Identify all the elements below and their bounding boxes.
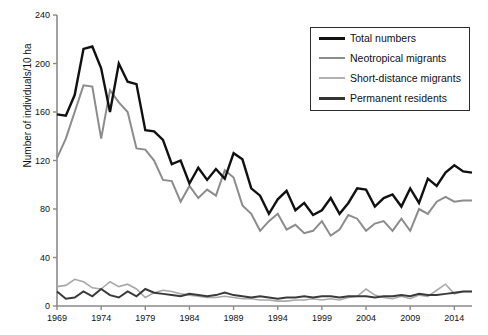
legend-item-neotropical-migrants: Neotropical migrants: [311, 48, 469, 68]
y-tick-label: 40: [40, 253, 50, 263]
y-tick-label: 0: [45, 301, 50, 311]
legend-item-total-numbers: Total numbers: [311, 28, 469, 48]
legend-swatch-neotropical-migrants: [319, 57, 345, 59]
x-tick-label: 1969: [47, 313, 67, 323]
y-tick-label: 200: [35, 59, 50, 69]
legend-item-short-distance-migrants: Short-distance migrants: [311, 68, 469, 88]
legend-label-neotropical-migrants: Neotropical migrants: [350, 53, 446, 64]
legend-swatch-short-distance-migrants: [319, 77, 345, 79]
legend-label-short-distance-migrants: Short-distance migrants: [350, 73, 461, 84]
y-tick-label: 240: [35, 10, 50, 20]
x-tick-label: 1979: [135, 313, 155, 323]
legend-item-permanent-residents: Permanent residents: [311, 88, 469, 108]
legend-label-permanent-residents: Permanent residents: [350, 93, 447, 104]
legend-swatch-permanent-residents: [319, 97, 345, 100]
legend-label-total-numbers: Total numbers: [350, 33, 416, 44]
x-tick-label: 1974: [91, 313, 111, 323]
x-tick-label: 1994: [268, 313, 288, 323]
x-tick-label: 2009: [400, 313, 420, 323]
x-tick-label: 2014: [444, 313, 464, 323]
legend-swatch-total-numbers: [319, 37, 345, 40]
y-tick-label: 80: [40, 204, 50, 214]
chart-legend: Total numbers Neotropical migrants Short…: [310, 27, 470, 111]
y-tick-label: 160: [35, 107, 50, 117]
series-line-permanent-residents: [57, 289, 472, 299]
x-tick-label: 1984: [179, 313, 199, 323]
chart-figure: Number of individuals/10 ha 040801201602…: [0, 0, 488, 335]
x-tick-label: 1989: [224, 313, 244, 323]
x-tick-label: 1999: [312, 313, 332, 323]
x-tick-label: 2004: [356, 313, 376, 323]
y-tick-label: 120: [35, 156, 50, 166]
